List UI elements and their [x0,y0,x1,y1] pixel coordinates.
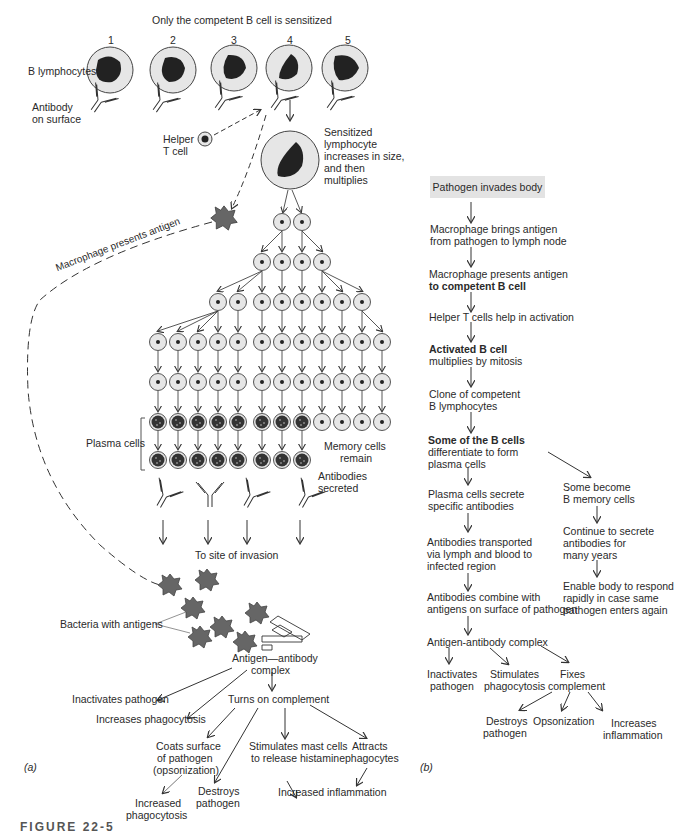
outcome-arrows-a [158,668,367,797]
outcome-fixes-1: Fixes [560,668,585,681]
antibody-surface-label-1: Antibody [32,101,73,114]
memory-branch-3c: pathogen enters again [563,604,668,617]
step-activated-1: Activated B cell [429,343,507,356]
b-lymphocytes-label: B lymphocytes [28,65,96,78]
stimulates-mast-label-1: Stimulates mast cells [249,740,348,753]
clone-tree [150,190,391,469]
step-macrophage-brings-1: Macrophage brings antigen [430,223,557,236]
cell-number-2: 2 [170,34,176,47]
destroys-label-2: pathogen [196,797,240,810]
inactivates-label: Inactivates pathogen [72,693,169,706]
complement-destroys-1: Destroys [486,715,527,728]
cell-number-4: 4 [287,34,293,47]
step-clone-2: B lymphocytes [429,400,497,413]
memory-cells-label-1: Memory cells [324,440,386,453]
pathogen-invades-box: Pathogen invades body [430,176,545,198]
coats-label-1: Coats surface [156,740,221,753]
memory-cells-label-2: remain [340,452,372,465]
attracts-label-1: Attracts [352,740,388,753]
sensitized-label-5: multiplies [324,174,368,187]
complement-increases-2: inflammation [603,729,663,742]
antibody-surface-label-2: on surface [32,113,81,126]
stimulates-mast-label-2: to release histamine [251,752,345,765]
site-of-invasion-label: To site of invasion [195,549,278,562]
destroys-label-1: Destroys [198,785,239,798]
increased-phago-label-2: phagocytosis [126,809,187,822]
secreted-antibodies [147,478,326,543]
step-macrophage-brings-2: from pathogen to lymph node [430,235,567,248]
step-plasma-secrete-2: specific antibodies [428,500,514,513]
complement-opsonization: Opsonization [533,715,594,728]
step-macrophage-presents-1: Macrophage presents antigen [429,268,568,281]
outcome-inactivates-1: Inactivates [427,668,477,681]
complement-increases-1: Increases [611,717,657,730]
sensitized-label-1: Sensitized [324,126,372,139]
outcome-stimulates-1: Stimulates [490,668,539,681]
sensitized-label-4: and then [324,162,365,175]
cell-number-5: 5 [345,34,351,47]
step-some-b-1: Some of the B cells [428,434,525,447]
memory-branch-3a: Enable body to respond [563,580,674,593]
step-helper-t: Helper T cells help in activation [429,311,574,324]
antibodies-secreted-label-2: secreted [318,482,358,495]
memory-branch-3b: rapidly in case same [563,592,659,605]
panel-a-title: Only the competent B cell is sensitized [152,14,332,27]
memory-branch-1a: Some become [563,481,631,494]
step-transported-2: via lymph and blood to [427,548,532,561]
complex-label-1: Antigen—antibody [232,652,318,665]
outcome-inactivates-2: pathogen [430,680,474,693]
step-complex: Antigen-antibody complex [427,636,548,649]
sensitized-lymphocyte [261,131,319,189]
step-combine-2: antigens on surface of pathogen [427,603,577,616]
complement-destroys-2: pathogen [483,727,527,740]
coats-label-2: of pathogen [157,752,212,765]
cell-number-1: 1 [108,34,114,47]
step-some-b-3: plasma cells [428,458,486,471]
bacteria-label: Bacteria with antigens [60,618,163,631]
helper-t-label-1: Helper [163,133,194,146]
step-transported-3: infected region [427,560,496,573]
antibodies-secreted-label-1: Antibodies [318,470,367,483]
bacteria-cluster [155,569,310,653]
step-some-b-2: differentiate to form [428,446,518,459]
helper-t-label-2: T cell [163,145,188,158]
helper-t-cell [198,132,212,146]
step-activated-2: multiplies by mitosis [429,355,522,368]
memory-branch-2a: Continue to secrete [563,525,654,538]
coats-label-3: (opsonization) [153,764,219,777]
step-combine-1: Antibodies combine with [427,591,540,604]
step-transported-1: Antibodies transported [427,536,532,549]
memory-branch-1b: B memory cells [563,493,635,506]
figure-caption-fragment: FIGURE 22-5 [20,820,115,834]
sensitized-label-3: increases in size, [324,150,405,163]
increased-inflammation-label: Increased inflammation [278,786,387,799]
b-lymphocyte-row [87,45,368,93]
outcome-fixes-2: complement [548,680,605,693]
panel-b-label: (b) [420,761,433,774]
step-macrophage-presents-2: to competent B cell [429,280,526,293]
increased-phago-label-1: Increased [135,797,181,810]
outcome-stimulates-2: phagocytosis [484,680,545,693]
complex-label-2: complex [251,664,290,677]
memory-branch-2c: many years [563,549,617,562]
sensitized-label-2: lymphocyte [324,138,377,151]
memory-branch-2b: antibodies for [563,537,626,550]
plasma-cells-label: Plasma cells [86,437,145,450]
increases-phago-label: Increases phagocytosis [96,713,206,726]
step-plasma-secrete-1: Plasma cells secrete [428,488,524,501]
panel-a-label: (a) [24,761,37,774]
cell-number-3: 3 [231,34,237,47]
attracts-label-2: phagocytes [345,752,399,765]
macrophage [211,206,237,230]
step-clone-1: Clone of competent [429,388,520,401]
turns-on-complement-label: Turns on complement [228,693,329,706]
